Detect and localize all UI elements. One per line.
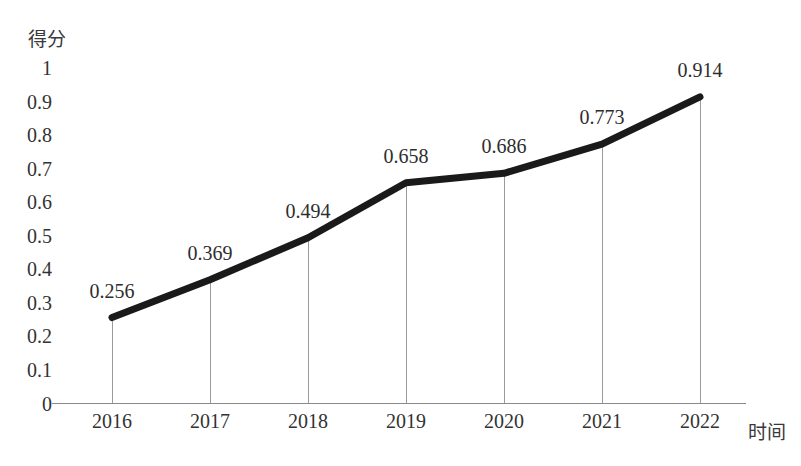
drop-line [210,280,211,404]
y-axis-tick-label: 0.5 [0,226,52,246]
y-axis-tick-label: 0.7 [0,159,52,179]
drop-line [700,97,701,404]
drop-line [602,144,603,403]
data-point-label: 0.773 [542,106,662,129]
y-axis-tick-label: 0.4 [0,259,52,279]
x-axis-line [62,403,746,404]
y-axis-tick-label: 0.2 [0,326,52,346]
y-axis-tick-label: 0.3 [0,293,52,313]
y-axis-tick-label: 0 [0,394,52,414]
x-axis-tick-label: 2018 [263,410,353,433]
x-axis-tick-label: 2019 [361,410,451,433]
x-axis-tick-label: 2022 [655,410,745,433]
data-point-label: 0.256 [52,280,172,303]
drop-line [308,238,309,404]
data-point-label: 0.914 [640,59,760,82]
y-axis-title: 得分 [28,24,66,51]
x-axis-title: 时间 [748,417,786,444]
y-axis-tick-label: 0.6 [0,192,52,212]
x-axis-tick-label: 2017 [165,410,255,433]
data-point-label: 0.494 [248,200,368,223]
chart-canvas: 得分 时间 00.10.20.30.40.50.60.70.80.91 2016… [0,0,801,466]
y-axis-tick-label: 1 [0,58,52,78]
drop-line [112,318,113,404]
x-axis-tick-label: 2020 [459,410,549,433]
drop-line [504,173,505,403]
drop-line [406,183,407,404]
x-axis-tick-label: 2021 [557,410,647,433]
x-axis-tick-label: 2016 [67,410,157,433]
y-axis-tick-label: 0.8 [0,125,52,145]
y-axis-tick-label: 0.9 [0,92,52,112]
data-point-label: 0.369 [150,242,270,265]
y-axis-tick-label: 0.1 [0,360,52,380]
data-point-label: 0.686 [444,135,564,158]
